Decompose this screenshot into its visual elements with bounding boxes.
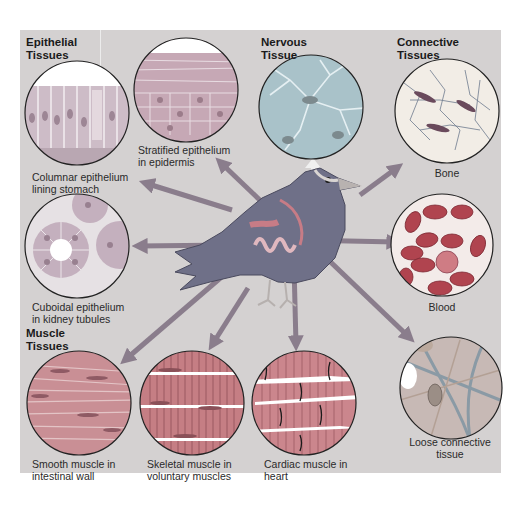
arrow-bone — [360, 167, 398, 195]
caption-bone: Bone — [422, 167, 472, 179]
columnar-epithelium-circle — [20, 55, 140, 175]
caption-stratified-epithelium: Stratified epithelium in epidermis — [138, 144, 230, 168]
heading-connective-tissues: Connective Tissues — [397, 36, 459, 62]
caption-smooth-muscle: Smooth muscle in intestinal wall — [32, 458, 115, 482]
caption-columnar-epithelium: Columnar epithelium lining stomach — [32, 171, 128, 195]
heading-epithelial-tissues: Epithelial Tissues — [26, 36, 77, 62]
nervous-tissue-circle — [255, 50, 370, 165]
caption-blood: Blood — [417, 301, 467, 313]
caption-cardiac-muscle: Cardiac muscle in heart — [264, 458, 347, 482]
arrow-skeletal — [212, 288, 248, 345]
arrow-columnar — [145, 183, 232, 210]
bird-illustration — [175, 168, 362, 308]
arrow-stratified — [220, 162, 265, 205]
stratified-epithelium-circle — [130, 35, 245, 145]
heading-nervous-tissue: Nervous Tissue — [261, 36, 307, 62]
cuboidal-epithelium-circle — [20, 187, 144, 305]
caption-cuboidal-epithelium: Cuboidal epithelium in kidney tubules — [32, 301, 124, 325]
caption-skeletal-muscle: Skeletal muscle in voluntary muscles — [147, 458, 232, 482]
caption-loose-connective-tissue: Loose connective tissue — [400, 436, 500, 460]
heading-muscle-tissues: Muscle Tissues — [26, 327, 69, 353]
arrow-smooth — [125, 268, 232, 360]
